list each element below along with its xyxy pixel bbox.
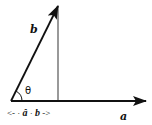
projection-left-arrow: <- <box>7 108 15 118</box>
projection-right-arrow: -> <box>42 108 50 118</box>
vector-projection-diagram: b a θ <- · â · b -> <box>0 0 152 125</box>
vector-b-label: b <box>30 23 38 36</box>
vector-a-label: a <box>120 110 127 123</box>
projection-dot-1: · <box>17 108 20 118</box>
a-hat-label: â <box>23 107 28 118</box>
projection-b-label: b <box>35 107 40 118</box>
projection-label: <- · â · b -> <box>7 107 50 118</box>
vector-b-arrow <box>11 6 58 101</box>
theta-label: θ <box>25 85 31 96</box>
angle-arc <box>16 91 22 101</box>
projection-dot-2: · <box>30 108 33 118</box>
